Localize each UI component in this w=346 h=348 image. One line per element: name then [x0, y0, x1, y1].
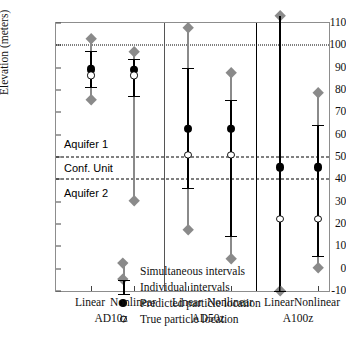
individual-interval-bar — [317, 125, 319, 256]
zone-label: Aquifer 2 — [64, 187, 108, 199]
x-tick-label: Nonlinear — [110, 296, 156, 308]
individual-interval-cap — [312, 125, 324, 126]
y-tick-label: 20 — [296, 217, 346, 229]
true-particle-marker — [276, 215, 283, 222]
x-group-label: AD10z — [94, 312, 127, 324]
x-tick-mark — [91, 286, 92, 291]
black-capped-bar-icon — [118, 279, 136, 295]
individual-interval-cap — [85, 87, 97, 88]
individual-interval-cap — [225, 236, 237, 237]
y-tick-mark — [56, 134, 61, 135]
y-tick-label: 50 — [296, 150, 346, 162]
x-tick-mark — [231, 286, 232, 291]
predicted-particle-marker — [227, 124, 236, 133]
simultaneous-endpoint-diamond-icon — [128, 195, 140, 207]
x-tick-mark — [280, 286, 281, 291]
y-tick-mark — [56, 201, 61, 202]
individual-interval-bar — [279, 16, 281, 291]
simultaneous-endpoint-diamond-icon — [182, 22, 194, 34]
y-tick-mark — [56, 291, 61, 292]
y-tick-label: 100 — [296, 38, 346, 50]
individual-interval-cap — [182, 68, 194, 69]
x-tick-label: Linear — [75, 296, 105, 308]
y-tick-label: 10 — [296, 239, 346, 251]
y-tick-label: 110 — [296, 16, 346, 28]
individual-interval-cap — [274, 291, 286, 292]
simultaneous-endpoint-diamond-icon — [85, 94, 97, 106]
y-tick-mark — [56, 67, 61, 68]
y-tick-label: 40 — [296, 172, 346, 184]
individual-interval-cap — [128, 59, 140, 60]
x-tick-label: Linear — [264, 296, 294, 308]
predicted-particle-marker — [184, 124, 193, 133]
simultaneous-endpoint-diamond-icon — [182, 224, 194, 236]
predicted-particle-marker — [276, 163, 285, 172]
plot-area: Aquifer 1Conf. UnitAquifer 2 Simultaneou… — [55, 22, 330, 292]
individual-interval-cap — [128, 96, 140, 97]
x-tick-label: Linear — [172, 296, 202, 308]
y-tick-label: 90 — [296, 61, 346, 73]
y-tick-mark — [56, 90, 61, 91]
gray-diamond-bar-icon — [118, 263, 136, 279]
y-tick-mark — [56, 112, 61, 113]
y-tick-label: 60 — [296, 128, 346, 140]
y-axis-title: Elevation (meters) — [0, 10, 10, 95]
group-separator — [256, 23, 257, 291]
y-tick-label: -10 — [296, 284, 346, 296]
individual-interval-cap — [312, 256, 324, 257]
true-particle-marker — [130, 72, 137, 79]
x-tick-label: Nonlinear — [207, 296, 253, 308]
y-tick-label: 70 — [296, 105, 346, 117]
group-separator — [164, 23, 165, 291]
y-tick-label: 80 — [296, 83, 346, 95]
y-tick-mark — [56, 246, 61, 247]
zone-label: Conf. Unit — [64, 162, 113, 174]
y-tick-mark — [56, 268, 61, 269]
x-group-label: AD50z — [191, 312, 224, 324]
true-particle-marker — [87, 72, 94, 79]
predicted-particle-marker — [314, 163, 323, 172]
chart-figure: Elevation (meters) Aquifer 1Conf. UnitAq… — [0, 0, 346, 348]
y-tick-label: 0 — [296, 262, 346, 274]
y-tick-mark — [56, 224, 61, 225]
individual-interval-cap — [182, 188, 194, 189]
individual-interval-bar — [230, 100, 232, 236]
simultaneous-endpoint-diamond-icon — [225, 67, 237, 79]
x-group-label: A100z — [283, 312, 314, 324]
legend-label: Simultaneous intervals — [140, 265, 245, 277]
individual-interval-cap — [85, 51, 97, 52]
reference-line — [56, 45, 329, 46]
simultaneous-endpoint-diamond-icon — [128, 46, 140, 58]
reference-line — [56, 179, 329, 180]
zone-label: Aquifer 1 — [64, 138, 108, 150]
simultaneous-endpoint-diamond-icon — [225, 253, 237, 265]
x-tick-label: Nonlinear — [294, 296, 340, 308]
reference-line — [56, 157, 329, 158]
y-tick-mark — [56, 23, 61, 24]
individual-interval-cap — [225, 100, 237, 101]
simultaneous-endpoint-diamond-icon — [85, 33, 97, 45]
y-tick-label: 30 — [296, 195, 346, 207]
legend-label: Individual intervals — [140, 281, 230, 293]
